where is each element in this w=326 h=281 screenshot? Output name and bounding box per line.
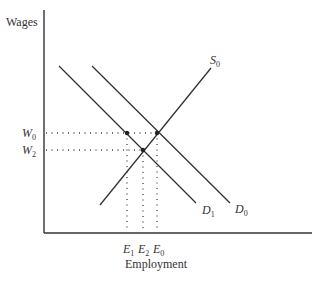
point-w2-s0-d1 — [141, 148, 145, 152]
supply-curve-s0 — [100, 68, 211, 205]
y-axis-label: Wages — [6, 15, 38, 29]
label-e0: E0 — [152, 242, 164, 258]
label-w0: W0 — [22, 126, 36, 142]
label-e2: E2 — [137, 242, 149, 258]
point-w0-s0-d0 — [155, 131, 159, 135]
label-s0: S0 — [210, 53, 220, 69]
label-e1: E1 — [122, 242, 134, 258]
label-d0: D0 — [234, 202, 248, 218]
label-d1: D1 — [201, 203, 215, 219]
label-w2: W2 — [22, 143, 36, 159]
labor-market-diagram: Wages Employment W0 W2 S0 D1 D0 E1 E2 E0 — [0, 0, 326, 281]
x-axis-label: Employment — [125, 257, 188, 271]
point-w0-d1 — [125, 131, 129, 135]
demand-curve-d0 — [92, 66, 230, 203]
